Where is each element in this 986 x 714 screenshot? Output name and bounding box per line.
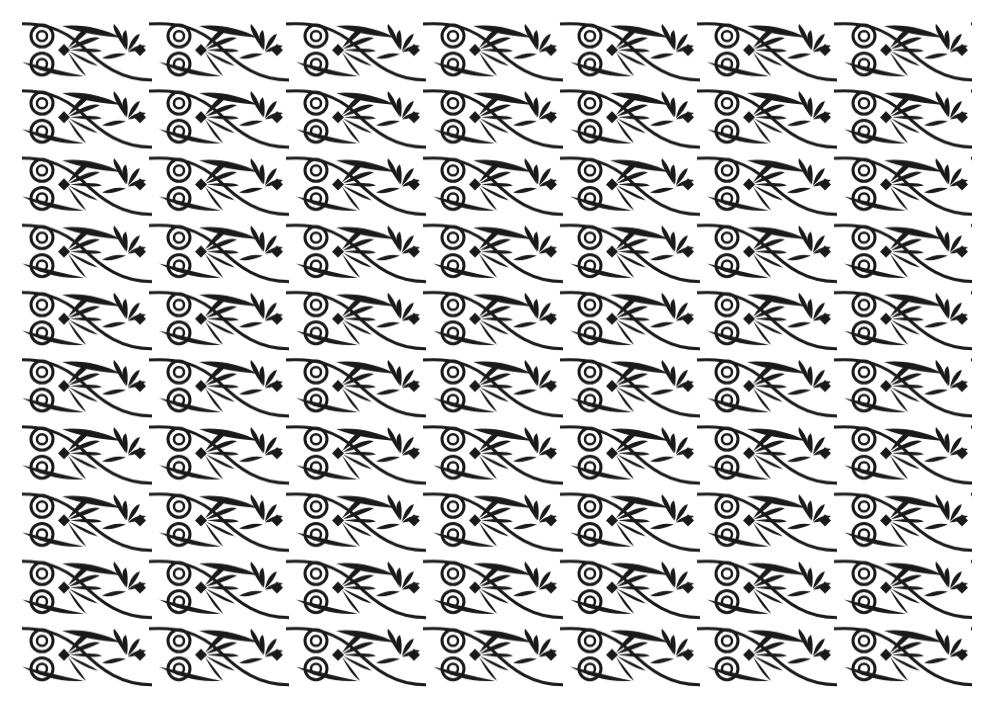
ornamental-pattern bbox=[0, 0, 986, 714]
pattern-field bbox=[22, 18, 972, 690]
